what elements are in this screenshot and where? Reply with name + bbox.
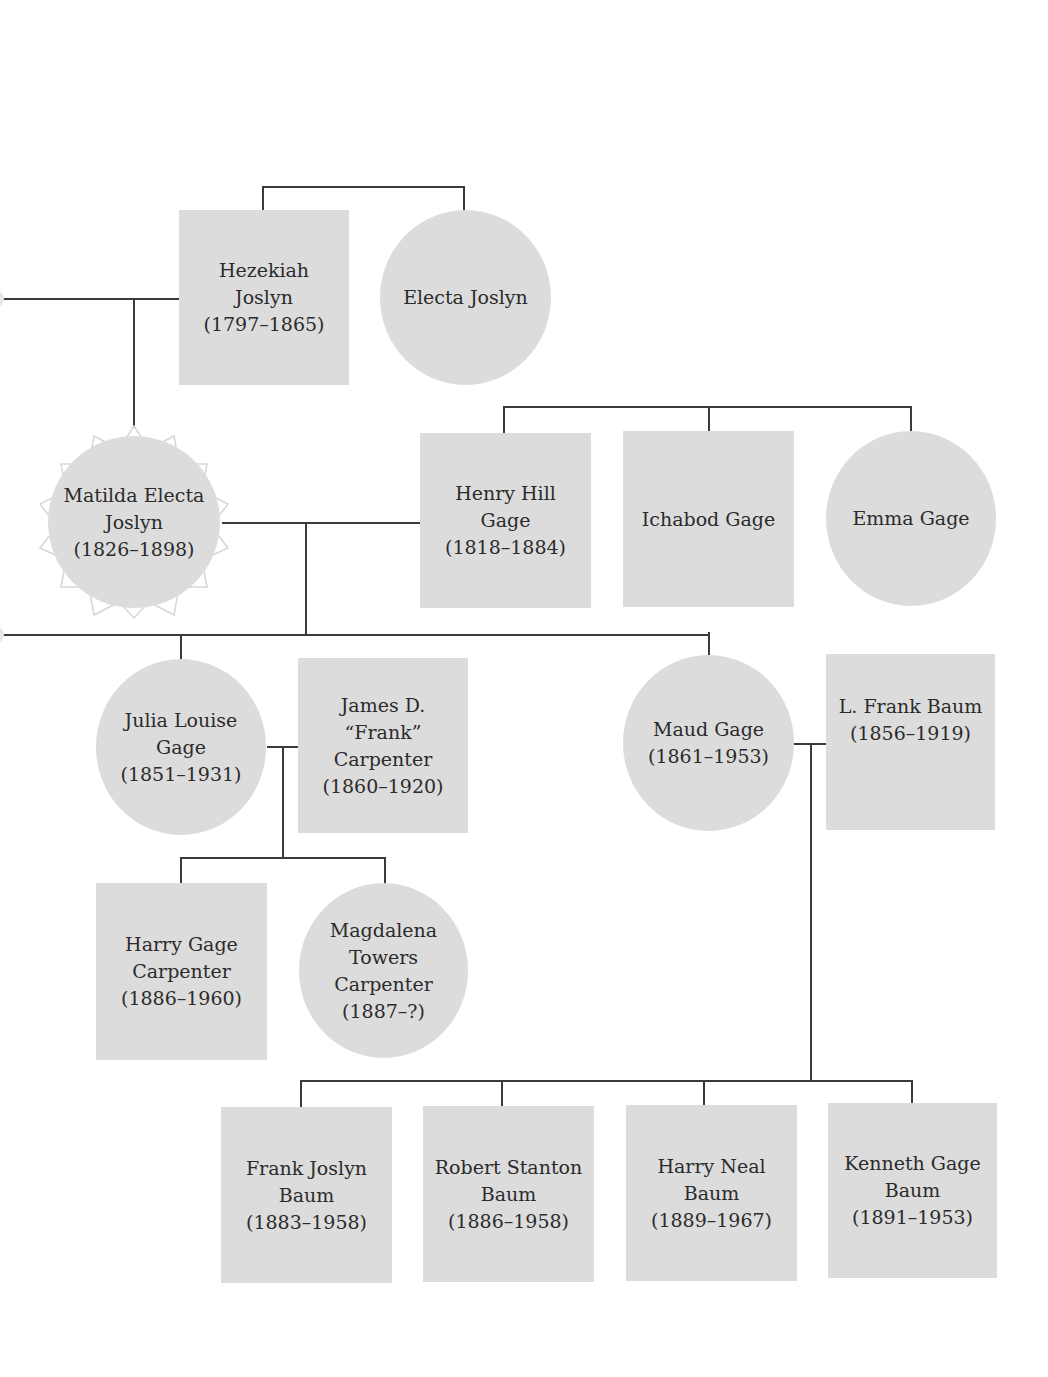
person-node-frank-joslyn-baum: Frank JoslynBaum(1883–1958) (221, 1107, 392, 1283)
person-node-hezekiah-joslyn: HezekiahJoslyn(1797–1865) (179, 210, 349, 385)
person-name: L. Frank Baum (839, 693, 983, 720)
offscreen-node-edge (0, 626, 4, 644)
person-name: Ichabod Gage (642, 506, 775, 533)
person-node-harry-neal-baum: Harry NealBaum(1889–1967) (626, 1105, 797, 1281)
person-node-emma-gage: Emma Gage (826, 431, 996, 606)
person-name: Henry Hill (445, 480, 566, 507)
connector-line (282, 746, 284, 858)
connector-line (384, 857, 386, 884)
person-years: (1856–1919) (839, 720, 983, 747)
connector-line (0, 298, 180, 300)
person-node-maud-gage: Maud Gage(1861–1953) (623, 655, 794, 831)
person-name: Maud Gage (648, 716, 769, 743)
person-years: (1891–1953) (844, 1204, 980, 1231)
person-name: Carpenter (330, 971, 437, 998)
person-years: (1860–1920) (322, 773, 443, 800)
connector-line (262, 186, 264, 211)
person-name: Joslyn (64, 509, 205, 536)
person-years: (1826–1898) (64, 536, 205, 563)
connector-line (300, 1080, 302, 1108)
person-node-magdalena-towers-carpenter: MagdalenaTowersCarpenter(1887–?) (299, 883, 468, 1058)
connector-line (703, 1080, 705, 1106)
connector-line (222, 522, 420, 524)
person-years: (1886–1958) (435, 1208, 582, 1235)
person-node-julia-louise-gage: Julia LouiseGage(1851–1931) (96, 659, 266, 835)
connector-line (503, 406, 505, 434)
person-name: Hezekiah (203, 257, 324, 284)
person-node-l-frank-baum: L. Frank Baum(1856–1919) (826, 654, 995, 830)
family-tree-diagram: HezekiahJoslyn(1797–1865) Electa Joslyn … (0, 0, 1048, 1377)
connector-line (180, 857, 182, 884)
person-name: Carpenter (322, 746, 443, 773)
person-node-kenneth-gage-baum: Kenneth GageBaum(1891–1953) (828, 1103, 997, 1278)
person-years: (1861–1953) (648, 743, 769, 770)
person-name: Baum (435, 1181, 582, 1208)
person-name: Frank Joslyn (246, 1155, 367, 1182)
connector-line (503, 406, 911, 408)
person-node-electa-joslyn: Electa Joslyn (380, 210, 551, 385)
person-node-ichabod-gage: Ichabod Gage (623, 431, 794, 607)
person-years: (1887–?) (330, 998, 437, 1025)
connector-line (180, 857, 385, 859)
person-name: Harry Gage (121, 931, 242, 958)
person-years: (1851–1931) (120, 761, 241, 788)
person-name: Matilda Electa (64, 482, 205, 509)
connector-line (133, 298, 135, 428)
person-name: “Frank” (322, 719, 443, 746)
person-node-matilda-electa-joslyn: Matilda ElectaJoslyn(1826–1898) (48, 436, 220, 608)
person-node-henry-hill-gage: Henry HillGage(1818–1884) (420, 433, 591, 608)
person-name: Electa Joslyn (403, 284, 528, 311)
connector-line (305, 522, 307, 634)
person-name: Emma Gage (852, 505, 969, 532)
person-name: Baum (246, 1182, 367, 1209)
connector-line (910, 406, 912, 432)
person-name: Magdalena (330, 917, 437, 944)
connector-line (463, 186, 465, 211)
person-name: Kenneth Gage (844, 1150, 980, 1177)
connector-line (262, 186, 464, 188)
person-node-harry-gage-carpenter: Harry GageCarpenter(1886–1960) (96, 883, 267, 1060)
person-years: (1883–1958) (246, 1209, 367, 1236)
connector-line (300, 1080, 912, 1082)
connector-line (180, 634, 182, 660)
person-node-james-carpenter: James D.“Frank”Carpenter(1860–1920) (298, 658, 468, 833)
person-name: Carpenter (121, 958, 242, 985)
person-years: (1797–1865) (203, 311, 324, 338)
person-name: Gage (120, 734, 241, 761)
connector-line (501, 1080, 503, 1107)
person-name: Gage (445, 507, 566, 534)
person-node-robert-stanton-baum: Robert StantonBaum(1886–1958) (423, 1106, 594, 1282)
person-years: (1889–1967) (651, 1207, 772, 1234)
person-name: Baum (844, 1177, 980, 1204)
person-name: James D. (322, 692, 443, 719)
person-name: Joslyn (203, 284, 324, 311)
connector-line (810, 743, 812, 1081)
person-name: Harry Neal (651, 1153, 772, 1180)
connector-line (911, 1080, 913, 1105)
connector-line (708, 406, 710, 432)
connector-line (0, 634, 710, 636)
person-name: Robert Stanton (435, 1154, 582, 1181)
person-name: Julia Louise (120, 707, 241, 734)
person-name: Towers (330, 944, 437, 971)
person-years: (1886–1960) (121, 985, 242, 1012)
offscreen-node-edge (0, 290, 4, 308)
person-years: (1818–1884) (445, 534, 566, 561)
person-name: Baum (651, 1180, 772, 1207)
